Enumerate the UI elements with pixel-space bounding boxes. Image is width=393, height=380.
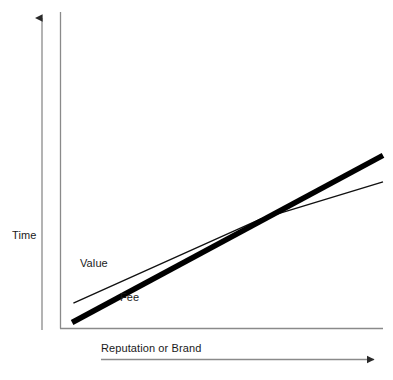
x-axis-label: Reputation or Brand <box>101 342 201 354</box>
chart-canvas <box>0 0 393 380</box>
series-label-fee: Fee <box>120 291 139 303</box>
chart-figure: Time Reputation or Brand Value Fee <box>0 0 393 380</box>
series-label-value: Value <box>80 257 108 269</box>
y-axis-label: Time <box>12 229 36 241</box>
series-line-value <box>73 182 383 303</box>
series-line-fee <box>72 155 383 322</box>
